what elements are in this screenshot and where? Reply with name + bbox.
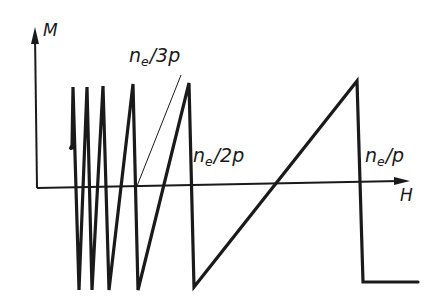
annotation-subscript: e — [141, 55, 149, 69]
annotation-base: n — [193, 144, 205, 166]
m-axis — [35, 34, 37, 188]
annotation-ne-3p: ne/3p — [129, 46, 180, 65]
m-axis-label: M — [43, 22, 58, 39]
annotation-subscript: e — [377, 155, 385, 169]
leader-line-ne-3p — [137, 75, 181, 186]
h-axis-label: H — [400, 187, 413, 204]
m-axis-arrow-icon — [31, 27, 39, 44]
annotation-suffix: /p — [386, 144, 404, 166]
annotation-base: n — [129, 44, 141, 66]
annotation-suffix: /3p — [150, 44, 181, 66]
annotation-suffix: /2p — [214, 144, 245, 166]
annotation-base: n — [365, 144, 377, 166]
annotation-ne-2p: ne/2p — [193, 146, 244, 165]
annotation-ne-p: ne/p — [365, 146, 404, 165]
annotation-subscript: e — [205, 155, 213, 169]
sawtooth-start — [71, 145, 73, 148]
h-axis — [37, 181, 400, 188]
h-axis-arrow-icon — [394, 177, 410, 185]
